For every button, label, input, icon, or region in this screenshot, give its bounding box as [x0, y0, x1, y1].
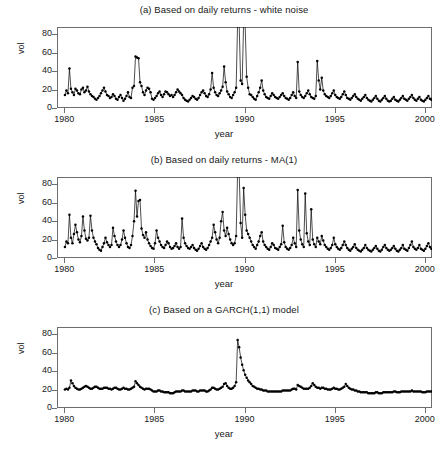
y-tick-label: 40	[26, 215, 52, 225]
panel-c-xlabel: year	[0, 428, 448, 439]
chart-panel-a: (a) Based on daily returns - white noise…	[0, 0, 448, 150]
x-tick-label: 1985	[134, 114, 174, 124]
y-tick-label: 20	[26, 234, 52, 244]
x-tick-label: 1990	[225, 414, 265, 424]
x-tick-mark	[425, 408, 426, 413]
y-tick-mark	[52, 408, 57, 409]
y-tick-label: 80	[26, 178, 52, 188]
x-tick-mark	[154, 108, 155, 113]
y-tick-label: 0	[26, 402, 52, 412]
y-tick-mark	[52, 353, 57, 354]
x-tick-mark	[335, 258, 336, 263]
y-tick-label: 40	[26, 65, 52, 75]
y-tick-label: 0	[26, 252, 52, 262]
x-tick-mark	[245, 108, 246, 113]
y-tick-mark	[52, 371, 57, 372]
x-tick-mark	[425, 258, 426, 263]
chart-panel-b: (b) Based on daily returns - MA(1) vol 0…	[0, 150, 448, 300]
y-tick-mark	[52, 90, 57, 91]
x-tick-mark	[154, 408, 155, 413]
panel-a-title: (a) Based on daily returns - white noise	[0, 4, 448, 15]
y-tick-mark	[52, 258, 57, 259]
y-tick-mark	[52, 53, 57, 54]
y-tick-mark	[52, 203, 57, 204]
panel-b-yticks: 020406080	[24, 177, 52, 258]
y-tick-mark	[52, 34, 57, 35]
x-tick-label: 1980	[44, 414, 84, 424]
x-tick-label: 1985	[134, 414, 174, 424]
panel-a-xlabel: year	[0, 128, 448, 139]
panel-b-title: (b) Based on daily returns - MA(1)	[0, 154, 448, 165]
x-tick-label: 1995	[315, 264, 355, 274]
y-tick-label: 80	[26, 28, 52, 38]
x-tick-label: 1995	[315, 114, 355, 124]
panel-c-yticks: 020406080	[24, 327, 52, 408]
y-tick-label: 60	[26, 197, 52, 207]
y-tick-label: 20	[26, 84, 52, 94]
chart-panel-c: (c) Based on a GARCH(1,1) model vol 0204…	[0, 300, 448, 450]
x-tick-mark	[335, 408, 336, 413]
x-tick-mark	[245, 258, 246, 263]
panel-c-series	[57, 327, 432, 408]
y-tick-mark	[52, 390, 57, 391]
x-tick-label: 1995	[315, 414, 355, 424]
y-tick-label: 40	[26, 365, 52, 375]
panel-b-series	[57, 177, 432, 258]
panel-a-series	[57, 27, 432, 108]
x-tick-mark	[425, 108, 426, 113]
x-tick-mark	[245, 408, 246, 413]
y-tick-label: 60	[26, 347, 52, 357]
x-tick-mark	[154, 258, 155, 263]
x-tick-label: 1990	[225, 264, 265, 274]
panel-c-plot-area	[57, 327, 432, 408]
panel-c-title: (c) Based on a GARCH(1,1) model	[0, 304, 448, 315]
x-tick-mark	[64, 408, 65, 413]
y-tick-mark	[52, 240, 57, 241]
panel-b-plot-area	[57, 177, 432, 258]
x-tick-label: 2000	[405, 114, 445, 124]
x-tick-mark	[64, 108, 65, 113]
x-tick-label: 1980	[44, 264, 84, 274]
x-tick-label: 1985	[134, 264, 174, 274]
panel-b-xlabel: year	[0, 278, 448, 289]
x-tick-label: 2000	[405, 264, 445, 274]
volatility-figure: (a) Based on daily returns - white noise…	[0, 0, 448, 451]
y-tick-mark	[52, 221, 57, 222]
panel-a-plot-area	[57, 27, 432, 108]
x-tick-label: 1980	[44, 114, 84, 124]
panel-a-yticks: 020406080	[24, 27, 52, 108]
y-tick-mark	[52, 108, 57, 109]
x-tick-mark	[64, 258, 65, 263]
x-tick-mark	[335, 108, 336, 113]
y-tick-mark	[52, 71, 57, 72]
y-tick-mark	[52, 184, 57, 185]
y-tick-label: 60	[26, 47, 52, 57]
y-tick-label: 80	[26, 328, 52, 338]
y-tick-label: 0	[26, 102, 52, 112]
x-tick-label: 2000	[405, 414, 445, 424]
x-tick-label: 1990	[225, 114, 265, 124]
y-tick-label: 20	[26, 384, 52, 394]
y-tick-mark	[52, 334, 57, 335]
